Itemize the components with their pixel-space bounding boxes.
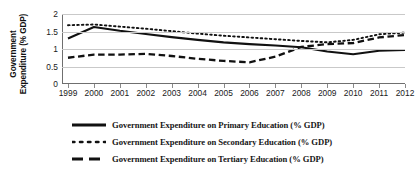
legend-swatch-solid <box>72 120 106 130</box>
x-axis-tick-mark <box>301 84 302 88</box>
x-axis-tick-labels: 1999200020012002200320042005200620072008… <box>62 88 405 102</box>
legend-swatch-dotted <box>72 137 106 147</box>
x-axis-tick-mark <box>146 84 147 88</box>
x-axis-tick-mark <box>198 84 199 88</box>
legend-label: Government Expenditure on Tertiary Educa… <box>112 154 324 164</box>
legend-item[interactable]: Government Expenditure on Primary Educat… <box>72 116 402 133</box>
legend-label: Government Expenditure on Primary Educat… <box>112 120 325 130</box>
x-axis-tick-mark <box>353 84 354 88</box>
legend-item[interactable]: Government Expenditure on Secondary Educ… <box>72 133 402 150</box>
x-axis-tick-mark <box>120 84 121 88</box>
gridline <box>62 14 405 15</box>
x-axis-tick-mark <box>172 84 173 88</box>
y-axis-tick-label: 2 <box>12 9 58 19</box>
y-axis-tick-label: 1 <box>12 44 58 54</box>
line-chart-figure: Government Expenditure (% GDP) 00.511.52… <box>0 0 420 180</box>
gridline <box>62 49 405 50</box>
legend-item[interactable]: Government Expenditure on Tertiary Educa… <box>72 150 402 167</box>
x-axis-tick-mark <box>68 84 69 88</box>
chart-legend: Government Expenditure on Primary Educat… <box>72 116 402 167</box>
x-axis-tick-mark <box>327 84 328 88</box>
y-axis-tick-label: 0.5 <box>12 62 58 72</box>
y-axis-tick-labels: 00.511.52 <box>10 14 58 84</box>
series-line-secondary <box>68 25 405 43</box>
x-axis-tick-mark <box>275 84 276 88</box>
x-axis-tick-mark <box>379 84 380 88</box>
x-axis-tick-mark <box>224 84 225 88</box>
y-axis-tick-label: 1.5 <box>12 27 58 37</box>
gridline <box>62 32 405 33</box>
plot-area <box>62 14 405 84</box>
x-axis-tick-mark <box>94 84 95 88</box>
legend-swatch-dashed <box>72 154 106 164</box>
x-axis-tick-mark <box>249 84 250 88</box>
x-axis-tick-label: 2012 <box>385 88 420 98</box>
legend-label: Government Expenditure on Secondary Educ… <box>112 137 332 147</box>
x-axis-tick-mark <box>405 84 406 88</box>
gridline <box>62 67 405 68</box>
